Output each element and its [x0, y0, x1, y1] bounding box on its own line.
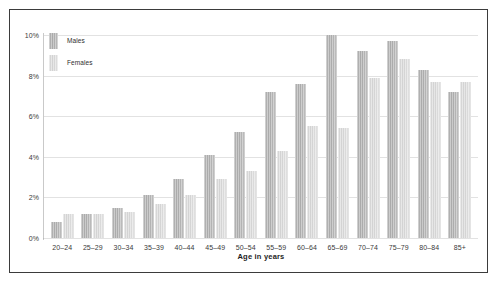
bar-group: 60–64: [292, 35, 323, 238]
bar-females: [63, 214, 74, 238]
x-axis-tick-label: 25–29: [83, 244, 103, 251]
bar-males: [265, 92, 276, 238]
bar-group: 80–84: [414, 35, 445, 238]
plot-area: 0%2%4%6%8%10% 20–2425–2930–3435–3940–444…: [44, 35, 478, 238]
legend-swatch-males-icon: [49, 33, 58, 49]
x-axis-tick-label: 65–69: [328, 244, 348, 251]
bar-group: 35–39: [139, 35, 170, 238]
bar-males: [204, 155, 215, 238]
bar-group: 55–59: [261, 35, 292, 238]
bar-females: [185, 195, 196, 238]
x-axis-tick-label: 50–54: [236, 244, 256, 251]
bar-group: 45–49: [200, 35, 231, 238]
chart-screenshot: 0%2%4%6%8%10% 20–2425–2930–3435–3940–444…: [0, 0, 497, 282]
bar-group: 85+: [445, 35, 476, 238]
bar-females: [307, 126, 318, 238]
x-axis-tick-label: 60–64: [297, 244, 317, 251]
bar-females: [93, 214, 104, 238]
bar-group: 50–54: [230, 35, 261, 238]
chart-canvas: 0%2%4%6%8%10% 20–2425–2930–3435–3940–444…: [0, 0, 497, 282]
bar-males: [387, 41, 398, 238]
bar-males: [112, 208, 123, 238]
x-axis-tick-label: 85+: [454, 244, 466, 251]
x-axis-tick-label: 20–24: [52, 244, 72, 251]
bar-females: [369, 78, 380, 238]
bar-group: 40–44: [169, 35, 200, 238]
bar-males: [234, 132, 245, 238]
x-axis-tick-label: 55–59: [266, 244, 286, 251]
y-axis-tick-label: 2%: [29, 194, 39, 201]
x-axis-tick-label: 30–34: [113, 244, 133, 251]
bar-males: [448, 92, 459, 238]
bar-females: [246, 171, 257, 238]
x-axis-tick-label: 75–79: [389, 244, 409, 251]
bar-females: [430, 82, 441, 238]
bar-group: 30–34: [108, 35, 139, 238]
bar-males: [173, 179, 184, 238]
bar-males: [418, 70, 429, 238]
legend-label-females: Females: [67, 59, 93, 66]
bar-females: [155, 204, 166, 239]
y-axis-tick-label: 6%: [29, 113, 39, 120]
legend-label-males: Males: [67, 37, 85, 44]
bar-group: 70–74: [353, 35, 384, 238]
chart-legend: Males Females: [49, 32, 93, 76]
legend-item-males: Males: [49, 32, 93, 49]
y-axis-tick-label: 0%: [29, 235, 39, 242]
bar-males: [295, 84, 306, 238]
bar-group: 65–69: [322, 35, 353, 238]
y-axis-tick-label: 8%: [29, 72, 39, 79]
bar-females: [277, 151, 288, 238]
x-axis-tick-label: 80–84: [419, 244, 439, 251]
bar-males: [81, 214, 92, 238]
bar-males: [357, 51, 368, 238]
bar-groups: 20–2425–2930–3435–3940–4445–4950–5455–59…: [44, 35, 478, 238]
bar-females: [216, 179, 227, 238]
y-axis-tick-label: 4%: [29, 153, 39, 160]
bar-females: [124, 212, 135, 238]
bar-group: 75–79: [383, 35, 414, 238]
x-axis-tick-label: 40–44: [175, 244, 195, 251]
bar-males: [326, 35, 337, 238]
bar-males: [143, 195, 154, 238]
bar-females: [338, 128, 349, 238]
bar-females: [399, 59, 410, 238]
legend-item-females: Females: [49, 54, 93, 71]
x-axis-tick-label: 35–39: [144, 244, 164, 251]
y-axis-tick-label: 10%: [25, 32, 39, 39]
x-axis-title: Age in years: [44, 252, 478, 261]
legend-swatch-females-icon: [49, 55, 58, 71]
bar-males: [51, 222, 62, 238]
x-axis-tick-label: 70–74: [358, 244, 378, 251]
x-axis-tick-label: 45–49: [205, 244, 225, 251]
bar-females: [460, 82, 471, 238]
gridline: 0%: [44, 238, 478, 239]
